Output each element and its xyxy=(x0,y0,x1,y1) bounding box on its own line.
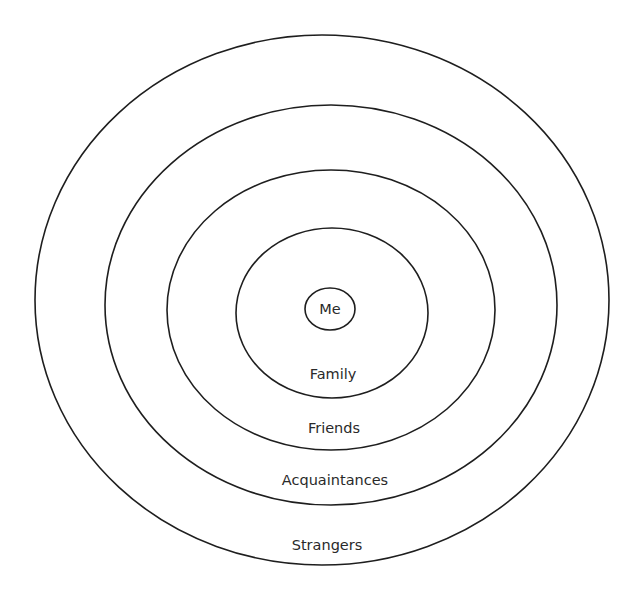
ring-label-friends: Friends xyxy=(308,420,360,436)
ring-label-acquaintances: Acquaintances xyxy=(282,472,388,488)
center-label-me: Me xyxy=(319,301,341,317)
social-circles-diagram: Me Family Friends Acquaintances Stranger… xyxy=(0,0,643,595)
ring-label-family: Family xyxy=(310,366,357,382)
ring-label-strangers: Strangers xyxy=(292,537,363,553)
